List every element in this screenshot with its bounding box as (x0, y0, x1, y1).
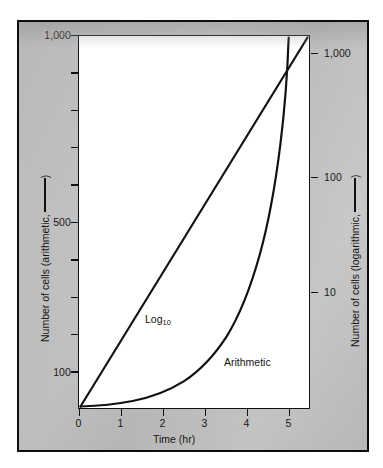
right-tick-10 (311, 292, 318, 293)
x-tick-1 (121, 409, 122, 416)
left-tick-800 (71, 110, 78, 111)
series-arithmetic-line (80, 37, 288, 406)
right-axis-title: Number of cells (logarithmic,) (349, 174, 361, 347)
series-log10-line (80, 37, 307, 406)
right-tick-1000 (311, 53, 318, 54)
right-axis-label-100: 100 (324, 171, 342, 183)
x-tick-0 (79, 409, 80, 416)
left-tick-900 (71, 72, 78, 73)
x-axis-label-1: 1 (111, 417, 131, 429)
left-tick-100 (71, 371, 78, 372)
x-tick-2 (163, 409, 164, 416)
left-axis-title-text: Number of cells (arithmetic, (39, 214, 51, 342)
left-tick-200 (71, 334, 78, 335)
figure-frame: Number of cells (arithmetic,) Number of … (17, 20, 369, 452)
series-label-arithmetic: Arithmetic (224, 356, 271, 368)
left-tick-1000 (71, 35, 78, 36)
left-axis-legend-rule (44, 178, 46, 212)
right-axis-legend-rule (354, 178, 356, 212)
left-axis-label-1000: 1,000 (27, 29, 71, 41)
right-tick-100 (311, 177, 318, 178)
series-label-log10: Log10 (145, 313, 171, 325)
chart-curves (79, 36, 309, 408)
series-label-log10-text: Log (145, 313, 163, 325)
left-tick-300 (71, 297, 78, 298)
x-tick-5 (289, 409, 290, 416)
left-tick-700 (71, 147, 78, 148)
x-tick-4 (247, 409, 248, 416)
right-axis-title-text: Number of cells (logarithmic, (349, 214, 361, 347)
right-axis-label-10: 10 (324, 286, 336, 298)
x-axis-label-4: 4 (237, 417, 257, 429)
left-axis-label-500: 500 (27, 216, 71, 228)
x-axis-title: Time (hr) (153, 433, 195, 445)
x-tick-3 (205, 409, 206, 416)
right-axis-label-1000: 1,000 (324, 47, 351, 59)
x-axis-label-5: 5 (279, 417, 299, 429)
right-axis-title-paren: ) (349, 174, 361, 178)
x-axis-label-0: 0 (69, 417, 89, 429)
left-axis-label-100: 100 (27, 366, 71, 378)
x-axis-label-2: 2 (153, 417, 173, 429)
plot-area: Log10 Arithmetic (78, 35, 310, 409)
left-axis-title: Number of cells (arithmetic,) (39, 175, 51, 342)
left-tick-400 (71, 259, 78, 260)
series-label-log10-subscript: 10 (163, 318, 171, 327)
left-tick-600 (71, 184, 78, 185)
left-tick-500 (71, 222, 78, 223)
left-axis-title-paren: ) (39, 175, 51, 179)
figure-page: Number of cells (arithmetic,) Number of … (0, 0, 383, 468)
x-axis-label-3: 3 (195, 417, 215, 429)
